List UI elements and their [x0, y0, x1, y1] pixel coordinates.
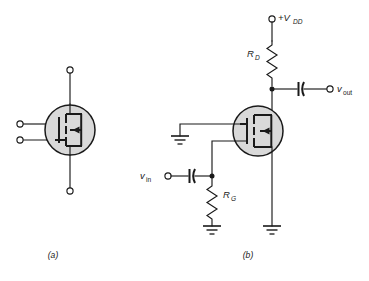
- gate-resistor-label-sub: G: [231, 195, 236, 202]
- output-label-sub: out: [343, 89, 352, 96]
- gate-resistor-ground-symbol: [203, 226, 221, 234]
- drain-resistor-label-sub: D: [255, 54, 260, 61]
- input-label-sub: in: [146, 176, 151, 183]
- panel-a-body-terminal[interactable]: [17, 137, 23, 143]
- panel-a-drain-terminal[interactable]: [67, 67, 73, 73]
- panel-b-device-envelope: [233, 106, 283, 156]
- drain-resistor-label: R: [247, 48, 254, 59]
- circuit-diagram-svg: (a) +V DD R D v out: [0, 0, 369, 281]
- panel-a: (a): [17, 67, 95, 260]
- gate-resistor: [207, 176, 217, 226]
- figure-root: (a) +V DD R D v out: [0, 0, 369, 281]
- panel-b-caption: (b): [243, 250, 254, 260]
- gate-resistor-label: R: [223, 189, 230, 200]
- output-terminal[interactable]: [327, 86, 333, 92]
- panel-a-gate-terminal[interactable]: [17, 121, 23, 127]
- drain-resistor: [267, 41, 277, 86]
- panel-a-caption: (a): [48, 250, 59, 260]
- supply-label-sub: DD: [293, 18, 303, 25]
- source-ground-symbol: [263, 226, 281, 234]
- body-ground-symbol: [171, 136, 189, 144]
- panel-b: +V DD R D v out: [140, 12, 352, 260]
- body-ground-wire: [180, 124, 240, 136]
- supply-terminal[interactable]: [269, 16, 275, 22]
- supply-label: +V: [278, 12, 292, 23]
- input-terminal[interactable]: [165, 173, 171, 179]
- panel-a-source-terminal[interactable]: [67, 188, 73, 194]
